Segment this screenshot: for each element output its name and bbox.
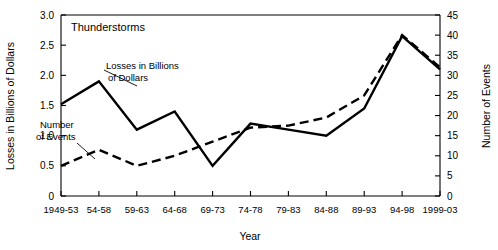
right-tick-label: 30 [447,70,459,81]
right-tick-label: 35 [447,50,459,61]
x-category-label: 84-88 [314,204,338,215]
x-category-label: 1999-03 [423,204,458,215]
x-category-label: 89-93 [352,204,376,215]
x-category-label: 74-78 [238,204,262,215]
y2-axis-title: Number of Events [480,64,492,148]
left-tick-label: 2.0 [40,70,54,81]
annotation-events-line1: Number [40,119,74,130]
x-axis-category-labels: 1949-5354-5859-6364-6869-7374-7879-8384-… [44,204,458,215]
right-tick-label: 45 [447,10,459,21]
x-category-label: 54-58 [87,204,111,215]
right-tick-label: 15 [447,130,459,141]
y-axis-title: Losses in Billions of Dollars [4,42,16,170]
x-category-label: 59-63 [125,204,149,215]
right-tick-label: 5 [447,170,453,181]
right-tick-label: 10 [447,150,459,161]
right-tick-label: 20 [447,110,459,121]
thunderstorms-chart: 00.51.01.52.02.53.0 051015202530354045 1… [0,0,498,250]
right-tick-label: 40 [447,30,459,41]
x-category-label: 1949-53 [44,204,79,215]
right-tick-label: 0 [447,191,453,202]
left-tick-label: 2.5 [40,40,54,51]
x-category-label: 79-83 [276,204,300,215]
annotation-events-line2: of Events [36,131,76,142]
x-category-label: 69-73 [200,204,224,215]
x-category-label: 94-98 [390,204,414,215]
right-tick-label: 25 [447,90,459,101]
x-category-label: 64-68 [163,204,187,215]
left-tick-label: 1.5 [40,100,54,111]
left-tick-label: 3.0 [40,10,54,21]
annotation-losses-line1: Losses in Billions [106,60,179,71]
x-axis-title: Year [239,230,261,242]
left-tick-label: 0 [48,191,54,202]
left-tick-label: 0.5 [40,160,54,171]
plot-title: Thunderstorms [71,21,145,33]
